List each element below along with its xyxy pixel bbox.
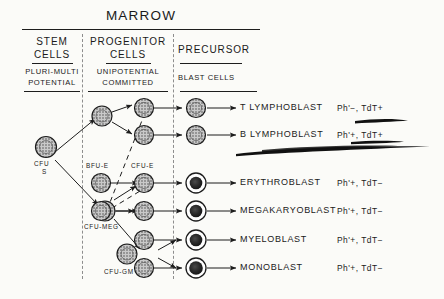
- cell-multipotent-lymphoid: [92, 106, 112, 126]
- blast-b-lymphoblast: [187, 126, 206, 145]
- row-markers-monoblast: Ph'+, TdT−: [337, 263, 383, 273]
- flow-graphic: [0, 0, 444, 299]
- row-label-erythroblast: ERYTHROBLAST: [240, 177, 321, 187]
- blast-megakaryoblast: [186, 201, 206, 221]
- label-bfu-e: BFU-E: [86, 162, 109, 169]
- label-cfu-e: CFU-E: [131, 162, 154, 169]
- label-cfu-meg: CFU-MEG: [84, 223, 119, 230]
- blast-erythroblast: [186, 173, 206, 193]
- cell-cfu-s: [36, 137, 57, 158]
- blast-monoblast: [186, 258, 206, 278]
- cell-megakaryocyte-progenitor: [135, 202, 154, 221]
- row-markers-erythroblast: Ph'+, TdT−: [337, 178, 383, 188]
- cell-bfu-e: [92, 174, 111, 193]
- row-label-megakaryoblast: MEGAKARYOBLAST: [240, 205, 336, 215]
- cell-cfu-meg-progenitor: [92, 202, 111, 221]
- hematopoiesis-diagram: MARROW STEM CELLS PLURI-MULTI POTENTIAL …: [0, 0, 444, 299]
- row-markers-t-lymphoblast: Ph'−, TdT+: [337, 103, 383, 113]
- row-label-monoblast: MONOBLAST: [240, 262, 303, 272]
- cell-cfu-e: [135, 174, 154, 193]
- blast-t-lymphoblast: [187, 99, 206, 118]
- row-label-b-lymphoblast: B LYMPHOBLAST: [240, 129, 323, 139]
- cell-cfu-gm: [117, 244, 137, 264]
- label-cfu-gm: CFU-GM: [104, 268, 134, 275]
- cell-progenitor-t: [135, 99, 154, 118]
- row-markers-myeloblast: Ph'+, TdT−: [337, 235, 383, 245]
- row-markers-megakaryoblast: Ph'+, TdT−: [337, 206, 383, 216]
- row-label-myeloblast: MYELOBLAST: [240, 234, 307, 244]
- cell-progenitor-b: [135, 126, 154, 145]
- label-cfu-s-line1: CFU: [34, 160, 49, 167]
- label-cfu-s-line2: S: [42, 168, 47, 175]
- row-label-t-lymphoblast: T LYMPHOBLAST: [240, 102, 323, 112]
- blast-myeloblast: [186, 230, 206, 250]
- cell-granulocyte-progenitor: [135, 231, 154, 250]
- row-markers-b-lymphoblast: Ph'+, TdT+: [337, 130, 383, 140]
- cell-monocyte-progenitor: [135, 259, 154, 278]
